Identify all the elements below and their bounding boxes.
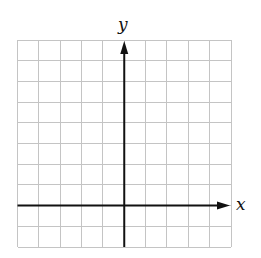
y-axis-label: y [118,16,128,33]
x-axis-arrow-icon [217,202,230,210]
coordinate-plane [0,0,261,258]
y-axis-arrow-icon [120,41,128,54]
x-axis-label: x [236,196,246,213]
